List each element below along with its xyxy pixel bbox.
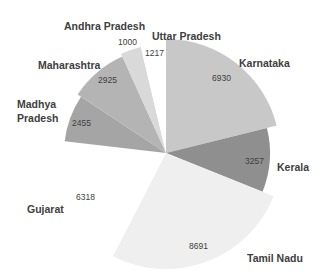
- category-label-maharashtra: Maharashtra: [38, 59, 101, 71]
- value-label-uttar-pradesh: 1217: [145, 48, 164, 58]
- category-label-karnataka: Karnataka: [239, 57, 290, 69]
- category-label-madhya-pradesh-line1: Madhya: [17, 98, 56, 110]
- category-label-kerala: Kerala: [277, 161, 309, 173]
- value-label-tamil-nadu: 8691: [189, 241, 208, 251]
- category-label-madhya-pradesh-line2: Pradesh: [17, 112, 58, 124]
- value-label-madhya-pradesh: 2455: [72, 118, 91, 128]
- category-label-uttar-pradesh: Uttar Pradesh: [152, 30, 221, 42]
- category-label-gujarat: Gujarat: [27, 203, 64, 215]
- value-label-gujarat: 6318: [76, 192, 95, 202]
- pie-slices: [56, 39, 277, 269]
- category-label-tamil-nadu: Tamil Nadu: [247, 252, 303, 264]
- value-label-andhra-pradesh: 1000: [118, 37, 137, 47]
- value-label-kerala: 3257: [245, 156, 264, 166]
- pie-chart: 6930 3257 8691 6318 2455 2925 1000 1217 …: [0, 0, 322, 278]
- value-label-karnataka: 6930: [212, 73, 231, 83]
- value-label-maharashtra: 2925: [98, 75, 117, 85]
- category-label-andhra-pradesh: Andhra Pradesh: [64, 20, 145, 32]
